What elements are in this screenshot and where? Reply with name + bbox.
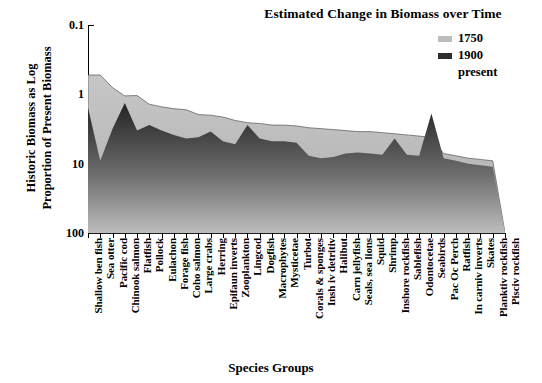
x-tick-label: Carn jellyfish (350, 238, 362, 301)
y-tick-label: 1 (78, 87, 84, 102)
x-tick-label: Coho salmon (190, 238, 202, 298)
x-tick-label: Shallow ben fish (92, 238, 104, 313)
x-tick-label: Flatfish (141, 238, 153, 273)
x-tick-label: Seabirds (435, 238, 447, 278)
x-tick-label: Ratfish (460, 238, 472, 272)
x-tick-label: Macrophytes (276, 238, 288, 298)
x-tick-label: Pollock (153, 238, 165, 272)
x-tick-label: Halibut (337, 238, 349, 273)
y-axis-tick-labels: 1001010.1 (0, 0, 84, 260)
area-series-svg (88, 25, 505, 234)
plot-area (88, 25, 505, 233)
x-tick-label: Inshore rockfish (399, 238, 411, 313)
x-tick-label: Skates (484, 238, 496, 268)
x-tick-label: In carniv inverts (472, 238, 484, 315)
x-tick-label: Lingcod (251, 238, 263, 276)
x-tick-label: Seals, sea lions (362, 238, 374, 305)
x-tick-label: Dogfish (264, 238, 276, 273)
x-tick-label: Squid (374, 238, 386, 265)
x-tick-label: Pisciv rockfish (509, 238, 521, 305)
x-tick-label: Forage fish (178, 238, 190, 290)
x-tick-label: Mysticetae (288, 238, 300, 288)
x-tick-label: Corals & sponges (313, 238, 325, 319)
x-tick-mark (88, 233, 89, 238)
x-tick-label: Sea otter (104, 238, 116, 279)
y-tick-label: 10 (72, 156, 84, 171)
x-tick-label: Pacific cod (117, 238, 129, 288)
x-tick-label: Chinook salmon (129, 238, 141, 313)
x-tick-label: Zooplankton (239, 238, 251, 297)
x-tick-label: Sablefish (411, 238, 423, 280)
x-tick-label: Epifaun inverts (227, 238, 239, 310)
x-tick-label: Insh iv detritiv (325, 238, 337, 306)
x-axis-title: Species Groups (0, 360, 542, 376)
x-tick-label: Large crabs (202, 238, 214, 293)
x-tick-label: Pac Oc Perch (448, 238, 460, 300)
x-tick-label: Turbot (301, 238, 313, 270)
x-tick-label: Eulachon (166, 238, 178, 282)
y-tick-label: 0.1 (69, 18, 84, 33)
chart-title: Estimated Change in Biomass over Time (228, 6, 538, 22)
chart-root: Estimated Change in Biomass over Time 17… (0, 0, 542, 383)
y-tick-label: 100 (66, 226, 84, 241)
x-tick-label: Odontocetae (423, 238, 435, 296)
x-tick-label: Planktiv rockfish (497, 238, 509, 317)
x-tick-label: Herring (215, 238, 227, 275)
x-tick-label: Shrimp (386, 238, 398, 273)
